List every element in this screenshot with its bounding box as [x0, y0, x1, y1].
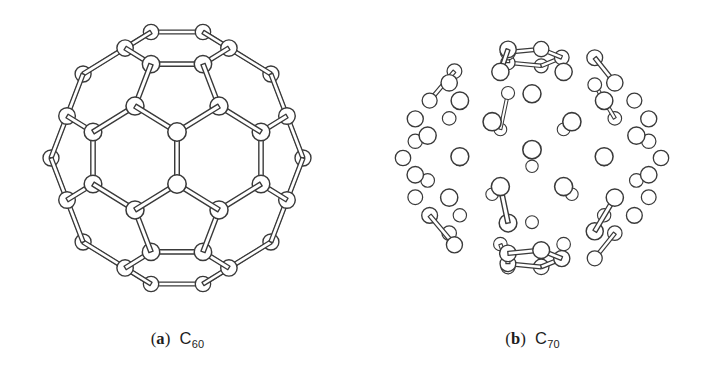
carbon-atom — [451, 148, 469, 166]
carbon-atom — [626, 207, 642, 223]
carbon-atom — [641, 167, 657, 183]
carbon-atom — [526, 160, 538, 172]
formula-element: C — [535, 329, 547, 347]
carbon-atom — [407, 111, 423, 127]
carbon-atom — [595, 92, 612, 109]
carbon-atom — [441, 75, 457, 91]
bond-group — [43, 24, 311, 291]
panel-c60: (a)C60 — [0, 0, 355, 372]
carbon-atom — [563, 113, 581, 131]
carbon-atom — [627, 93, 642, 108]
caption-close-paren: ) — [520, 329, 526, 348]
fullerene-figure: (a)C60 (b)C70 — [0, 0, 710, 372]
carbon-atom — [653, 150, 668, 165]
carbon-atom — [588, 78, 602, 92]
carbon-atom — [483, 113, 501, 131]
carbon-atom — [641, 190, 656, 205]
caption-formula: C60 — [179, 329, 204, 347]
carbon-atom — [526, 216, 539, 229]
caption-c70: (b)C70 — [355, 328, 710, 354]
carbon-atom — [628, 127, 645, 144]
formula-subscript: 70 — [547, 338, 560, 350]
carbon-atom — [501, 86, 514, 99]
carbon-atom — [446, 237, 462, 253]
carbon-atom — [407, 167, 423, 183]
carbon-atom — [607, 75, 623, 91]
carbon-atom — [491, 178, 509, 196]
carbon-atom — [395, 150, 410, 165]
carbon-atom — [492, 63, 509, 80]
carbon-atom — [595, 148, 613, 166]
caption-letter: b — [511, 329, 520, 348]
carbon-atom — [523, 85, 541, 103]
carbon-atom — [523, 140, 541, 158]
molecule-diagram-c60 — [0, 8, 355, 318]
bond-group — [395, 41, 668, 274]
carbon-atom — [419, 127, 436, 144]
carbon-atom — [168, 123, 186, 141]
caption-close-paren: ) — [165, 329, 171, 348]
carbon-atom — [453, 209, 466, 222]
carbon-atom — [557, 237, 571, 251]
formula-subscript: 60 — [192, 338, 205, 350]
caption-letter: a — [156, 329, 164, 348]
carbon-atom — [641, 111, 657, 127]
caption-c60: (a)C60 — [0, 328, 355, 354]
carbon-atom — [408, 190, 423, 205]
carbon-atom — [422, 93, 437, 108]
carbon-atom — [533, 242, 550, 259]
carbon-atom — [441, 189, 458, 206]
carbon-atom — [442, 112, 456, 126]
formula-element: C — [179, 329, 191, 347]
caption-formula: C70 — [535, 329, 560, 347]
carbon-atom — [555, 178, 573, 196]
carbon-atom — [606, 189, 623, 206]
carbon-atom — [555, 63, 572, 80]
panel-c70: (b)C70 — [355, 0, 710, 372]
carbon-atom — [534, 41, 549, 56]
molecule-diagram-c70 — [355, 8, 710, 318]
carbon-atom — [168, 175, 186, 193]
carbon-atom — [587, 251, 602, 266]
carbon-atom — [451, 92, 468, 109]
